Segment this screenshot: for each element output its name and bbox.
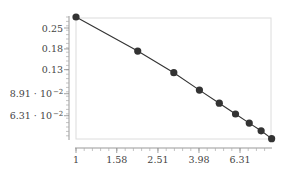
x-tick-label: 2.51 [147, 154, 168, 165]
x-axis: 11.582.513.986.31 [73, 148, 272, 165]
plot-frame [76, 18, 271, 139]
y-tick-label: 0.18 [42, 43, 63, 54]
data-point-marker [246, 119, 253, 126]
series-line [76, 17, 272, 139]
x-tick-label: 3.98 [188, 154, 209, 165]
data-point-marker [216, 100, 223, 107]
data-point-marker [232, 110, 239, 117]
y-axis: 0.250.180.138.91 · 10−26.31 · 10−2 [10, 16, 69, 140]
data-point-marker [196, 87, 203, 94]
log-log-line-chart: 0.250.180.138.91 · 10−26.31 · 10−2 11.58… [0, 0, 287, 169]
x-tick-label: 1.58 [106, 154, 127, 165]
y-tick-label: 0.25 [42, 23, 63, 34]
data-point-marker [134, 47, 141, 54]
y-tick-label: 8.91 · 10 [10, 88, 52, 99]
y-tick-label: 6.31 · 10 [10, 110, 52, 121]
data-point-marker [258, 127, 265, 134]
x-tick-label: 1 [73, 154, 79, 165]
data-point-marker [170, 69, 177, 76]
data-series [72, 13, 275, 142]
data-point-marker [268, 135, 275, 142]
y-tick-label: 0.13 [42, 64, 63, 75]
y-tick-exponent: −2 [53, 88, 63, 96]
y-tick-exponent: −2 [53, 110, 63, 118]
data-point-marker [72, 13, 79, 20]
x-tick-label: 6.31 [229, 154, 250, 165]
